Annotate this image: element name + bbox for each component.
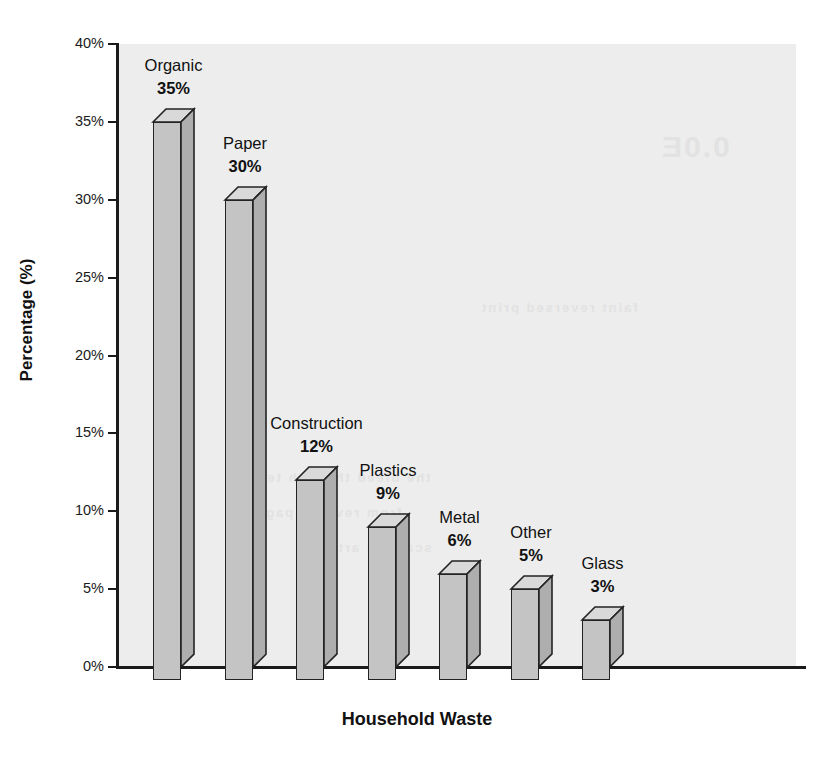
bar-value-label: 12% [227, 437, 407, 456]
bar-category-label: Construction [227, 414, 407, 433]
bar-metal[interactable] [439, 561, 480, 680]
bar-front-face [511, 589, 539, 680]
y-axis-title: Percentage (%) [17, 230, 37, 410]
bar-category-label: Paper [155, 134, 335, 153]
bar-category-label: Plastics [298, 461, 478, 480]
bar-paper[interactable] [225, 187, 266, 680]
bar-category-label: Glass [513, 554, 693, 573]
bar-front-face [153, 122, 181, 680]
bar-category-label: Other [441, 523, 621, 542]
x-axis-title: Household Waste [0, 709, 834, 730]
bar-front-face [368, 527, 396, 680]
bar-value-label: 9% [298, 484, 478, 503]
bar-front-face [439, 574, 467, 680]
bar-front-face [296, 480, 324, 680]
bars-layer: Organic35%Paper30%Construction12%Plastic… [0, 0, 834, 759]
bar-value-label: 35% [84, 79, 264, 98]
bar-organic[interactable] [153, 109, 194, 680]
bar-side-face [181, 109, 196, 669]
bar-category-label: Organic [84, 56, 264, 75]
bar-value-label: 3% [513, 577, 693, 596]
bar-side-face [610, 607, 625, 669]
bar-side-face [467, 561, 482, 669]
waste-composition-bar-chart: 0.0E the bleed through text from reverse… [0, 0, 834, 759]
bar-glass[interactable] [582, 607, 623, 680]
bar-value-label: 30% [155, 157, 335, 176]
bar-front-face [582, 620, 610, 680]
